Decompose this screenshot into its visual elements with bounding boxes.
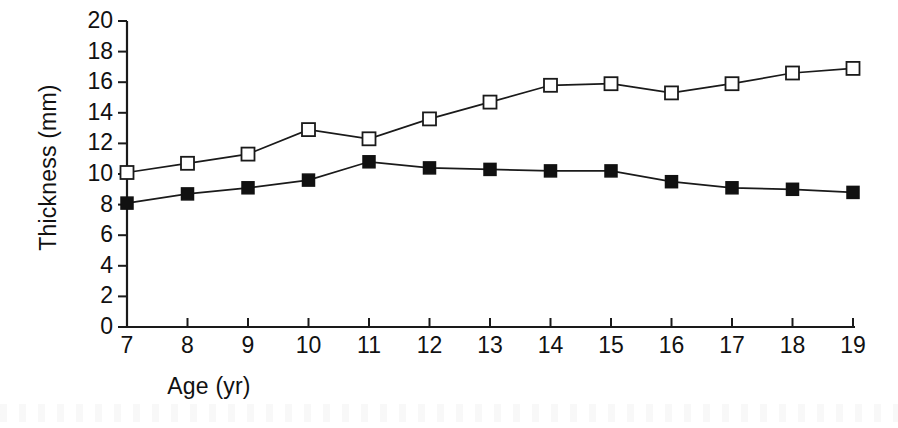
scan-artifact-band	[0, 404, 898, 422]
data-point-filled-square	[605, 165, 617, 177]
data-point-filled-square	[303, 174, 315, 186]
data-point-open-square	[242, 148, 255, 161]
data-point-open-square	[302, 123, 315, 136]
data-point-open-square	[847, 62, 860, 75]
data-point-filled-square	[847, 186, 859, 198]
data-point-open-square	[181, 157, 194, 170]
data-point-open-square	[423, 112, 436, 125]
data-point-open-square	[121, 166, 134, 179]
data-point-filled-square	[242, 182, 254, 194]
chart-figure: Thickness (mm) Age (yr) 2018161412108642…	[0, 0, 898, 428]
series-open-square-series	[121, 62, 860, 179]
data-point-filled-square	[787, 183, 799, 195]
data-point-open-square	[726, 77, 739, 90]
data-point-open-square	[786, 67, 799, 80]
data-point-open-square	[363, 132, 376, 145]
data-point-filled-square	[424, 162, 436, 174]
data-point-filled-square	[121, 197, 133, 209]
data-series-layer	[121, 62, 860, 209]
data-point-filled-square	[363, 156, 375, 168]
data-point-filled-square	[182, 188, 194, 200]
data-point-open-square	[665, 86, 678, 99]
data-point-open-square	[544, 79, 557, 92]
plot-canvas	[0, 0, 898, 428]
data-point-open-square	[605, 77, 618, 90]
data-point-filled-square	[726, 182, 738, 194]
series-filled-square-series	[121, 156, 859, 209]
data-point-open-square	[484, 96, 497, 109]
series-line	[127, 68, 853, 172]
data-point-filled-square	[666, 176, 678, 188]
data-point-filled-square	[484, 163, 496, 175]
data-point-filled-square	[545, 165, 557, 177]
